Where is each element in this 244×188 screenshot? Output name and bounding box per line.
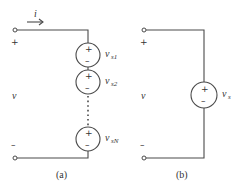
top-terminal-icon [13, 28, 17, 32]
source-plus: + [201, 84, 209, 94]
source-minus: – [85, 83, 90, 93]
source-label-sub: s [228, 93, 231, 101]
top-terminal-icon [142, 28, 146, 32]
panel-a: i + – v s1 + – v s2 + – v sN [11, 8, 119, 181]
source-label-sub: s1 [111, 53, 117, 61]
terminal-minus: – [11, 140, 16, 150]
bottom-wire [17, 151, 88, 158]
source-plus: + [85, 128, 93, 138]
voltage-source-2: + – v s2 [76, 70, 118, 94]
source-label: v [105, 48, 110, 59]
voltage-source-1: + – v s1 [76, 43, 117, 67]
bottom-terminal-icon [13, 156, 17, 160]
bottom-wire [146, 108, 204, 158]
terminal-plus: + [11, 37, 19, 47]
source-label: v [105, 132, 110, 143]
circuit-diagram: i + – v s1 + – v s2 + – v sN [0, 0, 244, 188]
source-minus: – [85, 140, 90, 150]
terminal-voltage-label: v [141, 90, 146, 101]
source-label-sub: sN [111, 137, 119, 145]
caption-a: (a) [56, 169, 67, 181]
top-wire [146, 30, 204, 82]
current-label: i [34, 8, 37, 19]
terminal-voltage-label: v [12, 90, 17, 101]
source-minus: – [201, 96, 206, 106]
voltage-source-n: + – v sN [76, 127, 119, 151]
source-minus: – [85, 56, 90, 66]
equivalent-voltage-source: + – v s [191, 82, 231, 108]
current-arrow-icon [27, 19, 43, 25]
bottom-terminal-icon [142, 156, 146, 160]
source-plus: + [85, 44, 93, 54]
top-wire [17, 30, 88, 43]
source-plus: + [85, 71, 93, 81]
caption-b: (b) [176, 169, 188, 181]
source-label: v [222, 88, 227, 99]
terminal-plus: + [140, 37, 148, 47]
terminal-minus: – [140, 140, 145, 150]
source-label: v [105, 75, 110, 86]
panel-b: + – v s + v – (b) [140, 28, 231, 181]
source-label-sub: s2 [111, 80, 118, 88]
